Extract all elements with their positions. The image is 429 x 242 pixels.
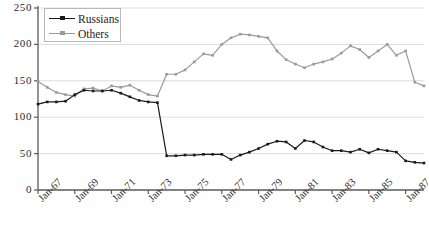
legend-label-others: Others [75,28,109,40]
series-others [37,33,426,97]
y-tick-label: 150 [0,74,32,86]
y-tick-label: 50 [0,147,32,159]
y-tick-label: 100 [0,110,32,122]
y-tick-label: 250 [0,1,32,13]
legend-item-russians: Russians [49,11,119,26]
y-tick-label: 0 [0,183,32,195]
legend-label-russians: Russians [75,13,119,25]
chart-container: 050100150200250 Jan-67Jan-69Jan-71Jan-73… [0,0,429,242]
y-tick-label: 200 [0,37,32,49]
legend-item-others: Others [49,26,109,41]
legend-line-icon-others [49,29,75,39]
series-russians [37,89,426,164]
legend-line-icon-russians [49,14,75,24]
chart-legend: Russians Others [44,8,121,42]
